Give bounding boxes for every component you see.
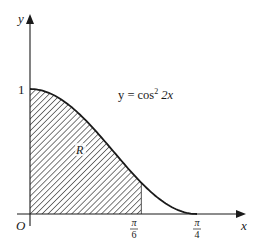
x-tick-pi-over-6: π 6	[130, 217, 138, 240]
x-tick-pi-over-4: π 4	[193, 217, 201, 240]
x-axis-label: x	[240, 218, 247, 233]
x-tick-pi6-denominator: 6	[132, 229, 137, 240]
y-tick-label-1: 1	[18, 82, 25, 97]
curve-label-suffix: 2x	[158, 88, 173, 102]
y-axis-arrow-icon	[26, 14, 34, 24]
area-diagram: y x 1 O y = cos2 2x R π 6 π 4	[0, 0, 257, 251]
x-tick-pi6-numerator: π	[131, 217, 137, 228]
curve-label-prefix: y = cos	[118, 88, 154, 102]
region-label: R	[75, 143, 84, 157]
curve-label: y = cos2 2x	[118, 87, 174, 102]
y-axis-label: y	[16, 11, 24, 26]
x-axis-arrow-icon	[236, 210, 246, 218]
x-tick-pi4-numerator: π	[194, 217, 200, 228]
x-tick-pi4-denominator: 4	[195, 229, 200, 240]
origin-label: O	[16, 218, 26, 233]
